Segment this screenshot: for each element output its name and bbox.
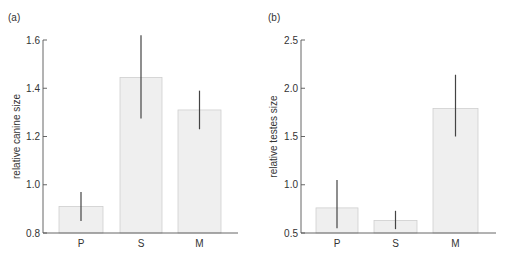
x-tick-label: P (78, 238, 85, 249)
y-tick-label: 2.5 (284, 35, 298, 46)
y-tick-label: 1.4 (26, 83, 40, 94)
y-tick-label: 1.0 (284, 179, 298, 190)
x-tick-label: M (451, 238, 459, 249)
x-tick-label: S (138, 238, 145, 249)
y-tick-label: 0.8 (26, 228, 40, 239)
y-tick-label: 2.0 (284, 83, 298, 94)
y-tick-label: 1.0 (26, 179, 40, 190)
x-tick-label: S (392, 238, 399, 249)
y-axis-title: relative canine size (11, 94, 22, 179)
y-tick-label: 1.6 (26, 35, 40, 46)
y-tick-label: 1.5 (284, 131, 298, 142)
y-axis-title: relative testes size (268, 95, 279, 178)
panel-label: (a) (8, 12, 20, 23)
bar-charts: (a)relative canine sizePSM0.81.01.21.41.… (0, 0, 509, 254)
panel-label: (b) (268, 12, 280, 23)
chart-panel-a: (a)relative canine sizePSM0.81.01.21.41.… (8, 12, 238, 249)
x-tick-label: M (195, 238, 203, 249)
y-tick-label: 1.2 (26, 131, 40, 142)
chart-panel-b: (b)relative testes sizePSM0.51.01.52.02.… (268, 12, 496, 249)
x-tick-label: P (334, 238, 341, 249)
y-tick-label: 0.5 (284, 228, 298, 239)
